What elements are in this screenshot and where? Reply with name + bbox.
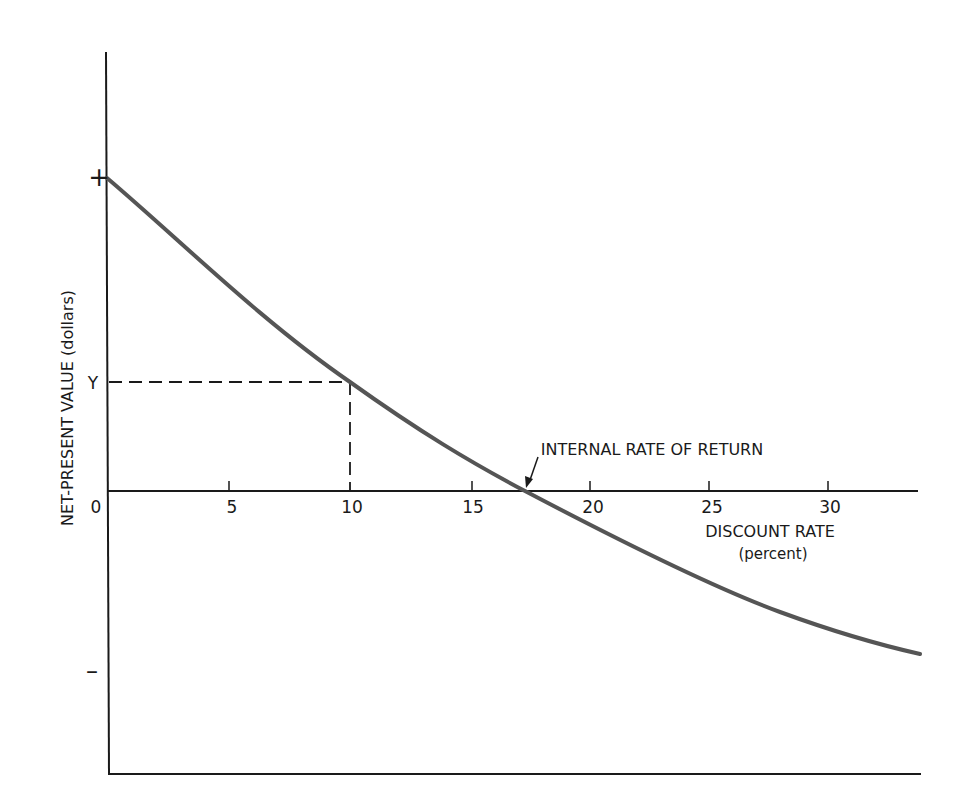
y-marker-label: Y (87, 373, 99, 393)
x-tick-label-20: 20 (582, 497, 604, 517)
irr-arrow-head (525, 476, 533, 488)
npv-curve (107, 178, 920, 654)
x-axis-unit: (percent) (738, 545, 807, 563)
plus-sign-label: + (88, 162, 110, 192)
x-tick-label-5: 5 (227, 497, 238, 517)
irr-annotation: INTERNAL RATE OF RETURN (541, 440, 763, 459)
x-tick-label-10: 10 (341, 497, 363, 517)
y-axis (106, 52, 109, 775)
irr-arrow-line (530, 457, 538, 480)
y-axis-title: NET-PRESENT VALUE (dollars) (58, 290, 77, 526)
minus-sign-label: – (86, 657, 98, 685)
zero-label: 0 (91, 497, 102, 517)
x-axis-title: DISCOUNT RATE (705, 522, 835, 541)
npv-chart: + – Y 0 5 10 15 20 25 30 DISCOUNT RATE (… (0, 0, 968, 809)
x-tick-label-15: 15 (462, 497, 484, 517)
x-tick-label-30: 30 (819, 497, 841, 517)
x-tick-label-25: 25 (701, 497, 723, 517)
